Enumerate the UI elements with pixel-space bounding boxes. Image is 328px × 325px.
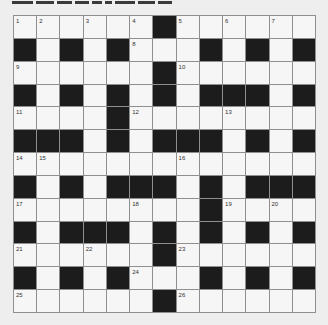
grid-cell[interactable]: [84, 107, 106, 129]
grid-cell[interactable]: 1: [14, 16, 36, 38]
grid-cell[interactable]: 5: [177, 16, 199, 38]
grid-cell[interactable]: 21: [14, 244, 36, 266]
grid-cell[interactable]: 11: [14, 107, 36, 129]
grid-cell[interactable]: [177, 176, 199, 198]
grid-cell[interactable]: [270, 222, 292, 244]
grid-cell[interactable]: 25: [14, 290, 36, 312]
grid-cell[interactable]: [37, 85, 59, 107]
grid-cell[interactable]: [177, 39, 199, 61]
grid-cell[interactable]: [37, 290, 59, 312]
grid-cell[interactable]: [246, 244, 268, 266]
grid-cell[interactable]: [223, 130, 245, 152]
grid-cell[interactable]: [293, 107, 315, 129]
grid-cell[interactable]: [153, 199, 175, 221]
grid-cell[interactable]: [177, 222, 199, 244]
grid-cell[interactable]: [153, 153, 175, 175]
grid-cell[interactable]: [37, 107, 59, 129]
grid-cell[interactable]: [153, 107, 175, 129]
grid-cell[interactable]: 4: [130, 16, 152, 38]
grid-cell[interactable]: [84, 130, 106, 152]
grid-cell[interactable]: 7: [270, 16, 292, 38]
grid-cell[interactable]: 12: [130, 107, 152, 129]
grid-cell[interactable]: [293, 153, 315, 175]
grid-cell[interactable]: [246, 62, 268, 84]
grid-cell[interactable]: [293, 62, 315, 84]
grid-cell[interactable]: 18: [130, 199, 152, 221]
grid-cell[interactable]: [270, 107, 292, 129]
grid-cell[interactable]: [293, 16, 315, 38]
grid-cell[interactable]: [37, 176, 59, 198]
grid-cell[interactable]: [37, 39, 59, 61]
grid-cell[interactable]: [200, 153, 222, 175]
grid-cell[interactable]: 22: [84, 244, 106, 266]
grid-cell[interactable]: [107, 153, 129, 175]
grid-cell[interactable]: [84, 199, 106, 221]
grid-cell[interactable]: [270, 62, 292, 84]
grid-cell[interactable]: [130, 244, 152, 266]
grid-cell[interactable]: [60, 62, 82, 84]
grid-cell[interactable]: [270, 39, 292, 61]
grid-cell[interactable]: [223, 62, 245, 84]
grid-cell[interactable]: [246, 107, 268, 129]
grid-cell[interactable]: [107, 62, 129, 84]
grid-cell[interactable]: [293, 244, 315, 266]
grid-cell[interactable]: [37, 62, 59, 84]
grid-cell[interactable]: [130, 222, 152, 244]
grid-cell[interactable]: [200, 107, 222, 129]
grid-cell[interactable]: 6: [223, 16, 245, 38]
grid-cell[interactable]: [223, 267, 245, 289]
grid-cell[interactable]: [130, 153, 152, 175]
grid-cell[interactable]: 17: [14, 199, 36, 221]
grid-cell[interactable]: 23: [177, 244, 199, 266]
grid-cell[interactable]: [200, 244, 222, 266]
grid-cell[interactable]: [200, 290, 222, 312]
grid-cell[interactable]: [177, 85, 199, 107]
grid-cell[interactable]: [223, 244, 245, 266]
grid-cell[interactable]: [60, 107, 82, 129]
grid-cell[interactable]: [223, 39, 245, 61]
grid-cell[interactable]: [130, 290, 152, 312]
grid-cell[interactable]: [84, 62, 106, 84]
grid-cell[interactable]: [37, 244, 59, 266]
grid-cell[interactable]: [153, 267, 175, 289]
grid-cell[interactable]: [200, 16, 222, 38]
grid-cell[interactable]: 3: [84, 16, 106, 38]
grid-cell[interactable]: 10: [177, 62, 199, 84]
grid-cell[interactable]: [107, 244, 129, 266]
grid-cell[interactable]: 13: [223, 107, 245, 129]
grid-cell[interactable]: [37, 199, 59, 221]
grid-cell[interactable]: 26: [177, 290, 199, 312]
grid-cell[interactable]: [223, 153, 245, 175]
grid-cell[interactable]: 14: [14, 153, 36, 175]
grid-cell[interactable]: [270, 267, 292, 289]
grid-cell[interactable]: [60, 244, 82, 266]
grid-cell[interactable]: [177, 107, 199, 129]
grid-cell[interactable]: 9: [14, 62, 36, 84]
grid-cell[interactable]: [60, 290, 82, 312]
grid-cell[interactable]: [177, 267, 199, 289]
grid-cell[interactable]: 16: [177, 153, 199, 175]
grid-cell[interactable]: [246, 153, 268, 175]
grid-cell[interactable]: 15: [37, 153, 59, 175]
grid-cell[interactable]: [200, 62, 222, 84]
grid-cell[interactable]: 24: [130, 267, 152, 289]
grid-cell[interactable]: [270, 130, 292, 152]
grid-cell[interactable]: [293, 199, 315, 221]
grid-cell[interactable]: [223, 176, 245, 198]
grid-cell[interactable]: [107, 16, 129, 38]
grid-cell[interactable]: [223, 222, 245, 244]
grid-cell[interactable]: [60, 16, 82, 38]
grid-cell[interactable]: [246, 199, 268, 221]
grid-cell[interactable]: [84, 176, 106, 198]
grid-cell[interactable]: [107, 290, 129, 312]
grid-cell[interactable]: [84, 267, 106, 289]
grid-cell[interactable]: [270, 244, 292, 266]
grid-cell[interactable]: 20: [270, 199, 292, 221]
grid-cell[interactable]: 8: [130, 39, 152, 61]
grid-cell[interactable]: [130, 62, 152, 84]
grid-cell[interactable]: [37, 267, 59, 289]
grid-cell[interactable]: [246, 16, 268, 38]
grid-cell[interactable]: 19: [223, 199, 245, 221]
grid-cell[interactable]: [84, 153, 106, 175]
grid-cell[interactable]: [270, 153, 292, 175]
